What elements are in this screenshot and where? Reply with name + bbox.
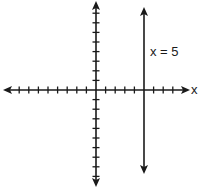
coordinate-plane: x = 5 x xyxy=(0,0,201,190)
line-label: x = 5 xyxy=(150,44,179,59)
x-axis-label: x xyxy=(191,82,198,97)
